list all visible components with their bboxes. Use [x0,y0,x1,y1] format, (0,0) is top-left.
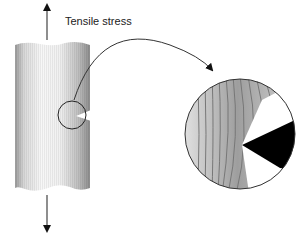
up-arrow-icon [43,3,51,40]
diagram-canvas [0,0,301,238]
specimen-bar [15,42,91,191]
magnify-arrow-icon [74,39,212,100]
magnified-notch-view [180,75,300,200]
down-arrow-icon [43,195,51,233]
